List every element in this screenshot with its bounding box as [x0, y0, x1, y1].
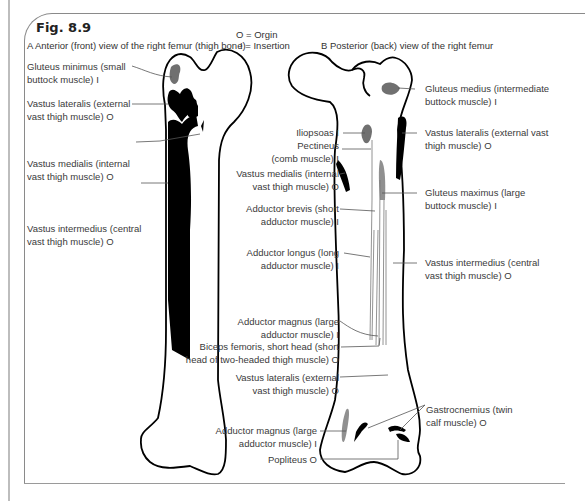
label-vastus-lateralis-posterior-lower: Vastus lateralis (external vast thigh mu… — [236, 372, 339, 397]
label-iliopsoas: Iliopsoas I — [296, 127, 339, 140]
label-popliteus: Popliteus O — [268, 454, 317, 467]
label-gluteus-maximus: Gluteus maximus (large buttock muscle) I — [425, 187, 525, 212]
label-adductor-magnus-lower: Adductor magnus (large adductor muscle) … — [216, 425, 317, 450]
label-gastrocnemius: Gastrocnemius (twin calf muscle) O — [426, 404, 513, 429]
label-vastus-medialis-posterior: Vastus medialis (internal vast thigh mus… — [236, 168, 339, 193]
label-vastus-intermedius-anterior: Vastus intermedius (central vast thigh m… — [27, 223, 141, 248]
label-adductor-longus: Adductor longus (long adductor muscle) I — [247, 247, 339, 272]
label-biceps-femoris-short-head: Biceps femoris, short head (short head o… — [186, 341, 339, 366]
label-gluteus-medius: Gluteus medius (intermediate buttock mus… — [425, 83, 549, 108]
label-vastus-medialis-anterior: Vastus medialis (internal vast thigh mus… — [27, 158, 130, 183]
anterior-muscle-markings — [168, 64, 204, 360]
label-adductor-brevis: Adductor brevis (short adductor muscle) … — [246, 203, 339, 228]
label-vastus-intermedius-posterior: Vastus intermedius (central vast thigh m… — [425, 257, 539, 282]
label-gluteus-minimus: Gluteus minimus (small buttock muscle) I — [27, 61, 126, 86]
label-vastus-lateralis-posterior-upper: Vastus lateralis (external vast thigh mu… — [425, 127, 548, 152]
posterior-muscle-markings — [336, 82, 410, 442]
label-pectineus: Pectineus (comb muscle) I — [271, 140, 339, 165]
label-adductor-magnus-upper: Adductor magnus (large adductor muscle) … — [238, 316, 339, 341]
label-vastus-lateralis-anterior: Vastus lateralis (external vast thigh mu… — [27, 98, 130, 123]
